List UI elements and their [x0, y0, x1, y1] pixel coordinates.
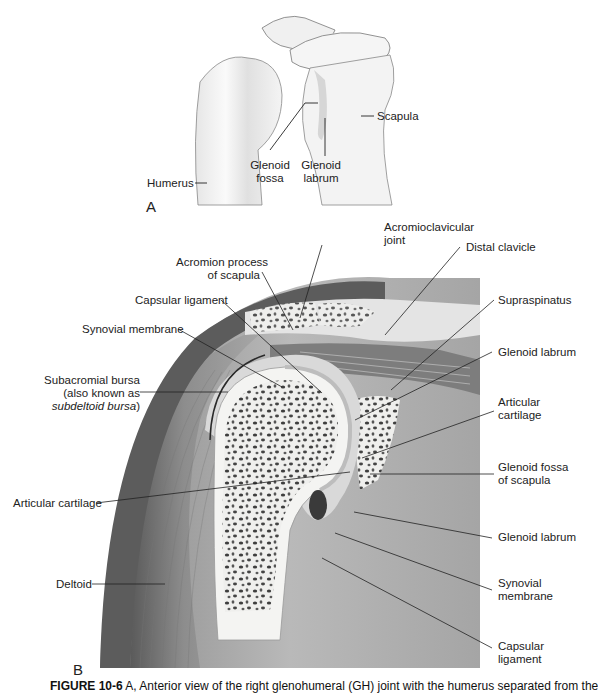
label-acromion-process: Acromion process of scapula — [176, 256, 260, 282]
label-glenoid-fossa: Glenoid fossa — [250, 159, 290, 185]
label-distal-clavicle: Distal clavicle — [466, 241, 536, 254]
label-capsular-ligament-top: Capsular ligament — [135, 294, 228, 307]
panel-a-art — [195, 16, 394, 205]
label-capsular-ligament-bottom: Capsular ligament — [498, 640, 544, 666]
label-articular-cartilage-right: Articular cartilage — [498, 396, 541, 422]
label-humerus: Humerus — [147, 177, 194, 190]
label-glenoid-labrum-bottom: Glenoid labrum — [498, 531, 576, 544]
label-deltoid: Deltoid — [56, 578, 92, 591]
label-synovial-membrane-top: Synovial membrane — [82, 323, 184, 336]
label-synovial-membrane-bottom: Synovial membrane — [498, 577, 553, 603]
label-articular-cartilage-left: Articular cartilage — [13, 497, 102, 510]
label-supraspinatus: Supraspinatus — [498, 294, 572, 307]
label-scapula: Scapula — [377, 110, 419, 123]
figure-caption: FIGURE 10-6 A, Anterior view of the righ… — [50, 679, 598, 693]
label-glenoid-labrum-a: Glenoid labrum — [301, 159, 341, 185]
label-acromioclavicular-joint: Acromioclavicular joint — [384, 221, 474, 247]
label-subacromial-bursa: Subacromial bursa (also known as subdelt… — [40, 374, 140, 413]
label-glenoid-labrum-top: Glenoid labrum — [498, 346, 576, 359]
panel-letter-b: B — [73, 661, 83, 678]
label-glenoid-fossa-scapula: Glenoid fossa of scapula — [498, 461, 568, 487]
panel-letter-a: A — [146, 198, 156, 215]
